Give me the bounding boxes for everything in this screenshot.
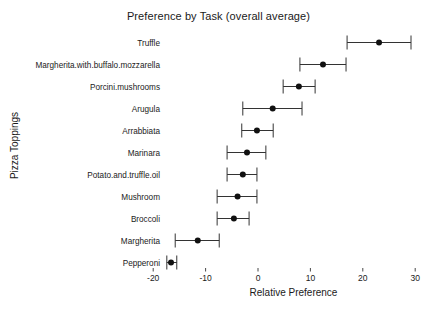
category-label: Mushroom [121, 193, 160, 202]
data-point-marker [240, 172, 246, 178]
x-axis-tick-label: -10 [199, 273, 212, 283]
data-point-marker [195, 238, 201, 244]
x-axis-tick-label: 10 [306, 273, 316, 283]
data-point-marker [254, 128, 260, 134]
data-point-marker [270, 106, 276, 112]
x-axis-tick-label: 20 [358, 273, 368, 283]
data-point-row [300, 58, 346, 72]
category-label: Potato.and.truffle.oil [87, 171, 160, 180]
data-point-row [227, 168, 257, 182]
category-label: Truffle [137, 39, 160, 48]
x-axis-tick-label: 30 [410, 273, 420, 283]
data-point-marker [168, 260, 174, 266]
data-point-row [217, 190, 257, 204]
data-point-row [227, 146, 266, 160]
x-axis-tick-label: 0 [256, 273, 261, 283]
category-label: Arrabbiata [122, 127, 160, 136]
category-label: Porcini.mushrooms [90, 83, 160, 92]
interval-marks-group [167, 36, 411, 270]
category-label: Pepperoni [123, 259, 161, 268]
chart-container: Preference by Task (overall average) Piz… [0, 0, 437, 314]
category-labels-group: TruffleMargherita.with.buffalo.mozzarell… [35, 39, 160, 268]
x-axis-title: Relative Preference [150, 287, 437, 298]
category-label: Margherita.with.buffalo.mozzarella [35, 61, 160, 70]
data-point-row [175, 234, 219, 248]
data-point-marker [296, 84, 302, 90]
plot-area: TruffleMargherita.with.buffalo.mozzarell… [0, 0, 437, 314]
data-point-marker [231, 216, 237, 222]
data-point-row [283, 80, 315, 94]
category-label: Margherita [121, 237, 161, 246]
category-label: Broccoli [131, 215, 160, 224]
data-point-row [242, 124, 273, 138]
data-point-row [167, 256, 177, 270]
data-point-row [243, 102, 302, 116]
data-point-row [217, 212, 249, 226]
data-point-marker [235, 194, 241, 200]
category-label: Marinara [128, 149, 161, 158]
data-point-row [347, 36, 411, 50]
category-label: Arugula [132, 105, 161, 114]
x-axis-tick-label: -20 [147, 273, 160, 283]
data-point-marker [376, 40, 382, 46]
data-point-marker [320, 62, 326, 68]
data-point-marker [244, 150, 250, 156]
x-axis-group: -20-100102030 [147, 268, 420, 283]
